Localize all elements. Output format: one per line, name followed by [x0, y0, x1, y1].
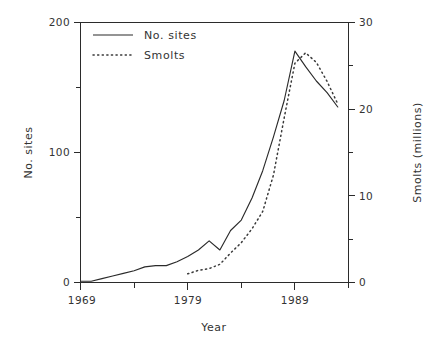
- right-tick-label-10: 10: [359, 190, 373, 202]
- x-tick-label-1989: 1989: [275, 294, 315, 306]
- right-tick-label-30: 30: [359, 16, 373, 28]
- legend-label-no-sites: No. sites: [144, 29, 197, 42]
- right-tick-label-20: 20: [359, 103, 373, 115]
- left-axis-ticks: [74, 23, 81, 283]
- y2-axis-title: Smolts (millions): [411, 83, 424, 223]
- legend-label-smolts: Smolts: [144, 49, 185, 62]
- chart-plot-svg: [0, 0, 433, 340]
- y-axis-title: No. sites: [22, 113, 35, 193]
- x-axis-title: Year: [174, 321, 254, 334]
- chart-figure: 200 100 0 30 20 10 0 1969 1979 1989 Year…: [0, 0, 433, 340]
- series-line-no-sites: [81, 51, 338, 281]
- left-tick-label-100: 100: [38, 146, 70, 158]
- left-tick-label-0: 0: [38, 276, 70, 288]
- series-line-smolts: [188, 53, 338, 274]
- x-tick-label-1979: 1979: [168, 294, 208, 306]
- x-tick-label-1969: 1969: [62, 294, 102, 306]
- left-tick-label-200: 200: [38, 16, 70, 28]
- right-axis-ticks: [349, 23, 356, 283]
- right-tick-label-0: 0: [359, 276, 366, 288]
- bottom-axis-ticks: [81, 283, 349, 291]
